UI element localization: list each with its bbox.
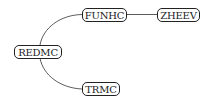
edge-redmc-trmc [40, 58, 82, 89]
node-trmc: TRMC [82, 82, 120, 96]
node-zheev: ZHEEV [157, 8, 200, 22]
node-funhc: FUNHC [82, 8, 127, 22]
edge-redmc-funhc [40, 15, 82, 46]
node-redmc: REDMC [14, 45, 62, 59]
